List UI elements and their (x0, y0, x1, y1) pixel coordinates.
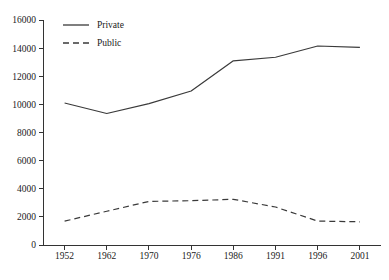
legend-label-private: Private (97, 20, 124, 30)
legend-label-public: Public (97, 38, 121, 48)
y-tick-label: 10000 (12, 100, 36, 110)
x-tick-label: 1986 (224, 251, 243, 261)
y-tick-label: 2000 (17, 212, 36, 222)
y-tick-label: 8000 (17, 128, 36, 138)
data-series-group (65, 46, 360, 222)
x-tick-label: 1970 (139, 251, 158, 261)
series-line-private (65, 46, 360, 114)
y-tick-label: 4000 (17, 184, 36, 194)
chart-legend: PrivatePublic (63, 20, 124, 48)
y-tick-label: 12000 (12, 72, 36, 82)
x-tick-label: 1996 (308, 251, 327, 261)
line-chart: 0200040006000800010000120001400016000 19… (0, 0, 389, 280)
x-tick-label: 1962 (97, 251, 116, 261)
figure-container: 0200040006000800010000120001400016000 19… (0, 0, 389, 280)
x-tick-label: 1991 (266, 251, 285, 261)
y-tick-label: 14000 (12, 44, 36, 54)
y-tick-label: 6000 (17, 156, 36, 166)
y-axis-ticks: 0200040006000800010000120001400016000 (12, 15, 43, 250)
x-tick-label: 1976 (182, 251, 201, 261)
x-tick-label: 2001 (350, 251, 369, 261)
series-line-public (65, 199, 360, 222)
x-tick-label: 1952 (55, 251, 74, 261)
y-tick-label: 0 (31, 240, 36, 250)
y-tick-label: 16000 (12, 15, 36, 25)
x-axis-ticks: 19521962197019761986199119962001 (55, 246, 370, 262)
